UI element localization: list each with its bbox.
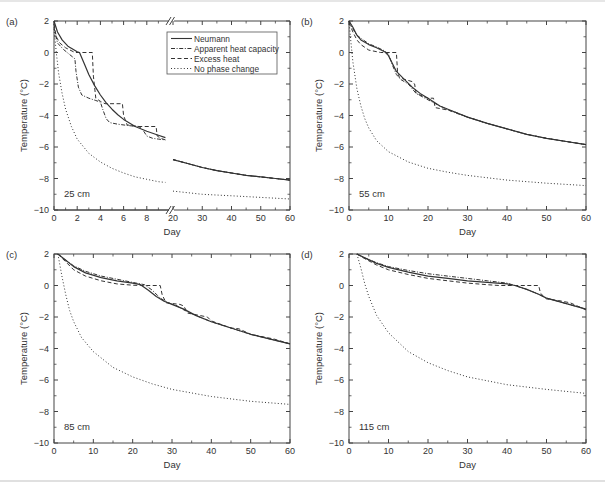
y-tick-label: −10 — [329, 438, 344, 448]
depth-annotation: 115 cm — [359, 421, 390, 432]
x-tick-label: 20 — [423, 213, 433, 223]
depth-annotation: 55 cm — [359, 188, 385, 199]
y-tick-label: −8 — [334, 407, 344, 417]
depth-annotation: 85 cm — [64, 421, 90, 432]
depth-annotation: 25 cm — [64, 188, 90, 199]
y-tick-label: −10 — [34, 205, 49, 215]
x-tick-label: 60 — [581, 213, 591, 223]
x-tick-label: 30 — [197, 213, 207, 223]
y-tick-label: 0 — [44, 48, 49, 58]
y-tick-label: 0 — [44, 281, 49, 291]
y-tick-label: −4 — [39, 111, 49, 121]
series-excess-heat — [54, 24, 165, 140]
x-tick-label: 50 — [541, 446, 551, 456]
x-tick-label: 0 — [346, 213, 351, 223]
series-excess-heat — [173, 160, 290, 181]
x-tick-label: 50 — [246, 446, 256, 456]
y-tick-label: 2 — [44, 16, 49, 26]
x-tick-label: 10 — [88, 446, 98, 456]
y-axis-label: Temperature (°C) — [313, 79, 324, 152]
series-no-phase-change — [349, 21, 586, 186]
panel-label: (d) — [301, 249, 313, 260]
series-apparent-heat-capacity — [54, 27, 165, 140]
y-tick-label: 2 — [44, 249, 49, 259]
series-excess-heat — [58, 254, 290, 344]
y-tick-label: −2 — [334, 312, 344, 322]
x-tick-label: 20 — [423, 446, 433, 456]
figure: 02468203040506020−2−4−6−8−10DayTemperatu… — [0, 0, 605, 482]
series-neumann — [349, 21, 586, 145]
panel-label: (b) — [301, 16, 313, 27]
y-tick-label: −6 — [334, 375, 344, 385]
legend-label-neumann: Neumann — [194, 34, 230, 44]
series-apparent-heat-capacity — [173, 160, 290, 181]
x-tick-label: 30 — [462, 446, 472, 456]
y-tick-label: −2 — [334, 79, 344, 89]
x-tick-label: 20 — [168, 213, 178, 223]
x-axis-label: Day — [164, 459, 181, 470]
x-axis-label: Day — [164, 226, 181, 237]
y-tick-label: 0 — [339, 281, 344, 291]
panel-c: 010203040506020−2−4−6−8−10DayTemperature… — [6, 249, 295, 470]
legend-label-excess-heat: Excess heat — [194, 54, 240, 64]
x-tick-label: 30 — [462, 213, 472, 223]
legend-label-no-phase-change: No phase change — [194, 64, 259, 74]
y-tick-label: 2 — [339, 249, 344, 259]
y-axis-label: Temperature (°C) — [18, 79, 29, 152]
x-tick-label: 40 — [226, 213, 236, 223]
series-neumann — [54, 21, 165, 138]
series-no-phase-change — [58, 254, 290, 404]
y-tick-label: 2 — [339, 16, 344, 26]
x-tick-label: 60 — [285, 213, 295, 223]
x-tick-label: 60 — [285, 446, 295, 456]
legend-label-apparent-heat-capacity: Apparent heat capacity — [194, 44, 280, 54]
series-no-phase-change — [54, 29, 165, 183]
y-tick-label: −8 — [39, 407, 49, 417]
y-tick-label: −2 — [39, 312, 49, 322]
x-tick-label: 8 — [144, 213, 149, 223]
y-tick-label: −6 — [39, 375, 49, 385]
series-neumann — [357, 254, 586, 309]
series-neumann — [58, 254, 290, 344]
axes-frame — [349, 254, 586, 443]
axes-frame — [54, 254, 290, 443]
x-axis-label: Day — [459, 459, 476, 470]
series-apparent-heat-capacity — [58, 254, 290, 344]
y-tick-label: −4 — [334, 344, 344, 354]
y-tick-label: −8 — [334, 174, 344, 184]
y-axis-label: Temperature (°C) — [18, 312, 29, 385]
series-neumann — [173, 160, 290, 181]
x-tick-label: 40 — [502, 446, 512, 456]
x-tick-label: 40 — [502, 213, 512, 223]
panel-label: (a) — [6, 16, 18, 27]
y-tick-label: −10 — [329, 205, 344, 215]
y-tick-label: −10 — [34, 438, 49, 448]
x-tick-label: 40 — [206, 446, 216, 456]
y-tick-label: −8 — [39, 174, 49, 184]
series-excess-heat — [349, 23, 586, 145]
x-tick-label: 6 — [121, 213, 126, 223]
y-tick-label: 0 — [339, 48, 344, 58]
y-tick-label: −2 — [39, 79, 49, 89]
series-no-phase-change — [357, 254, 586, 393]
x-tick-label: 0 — [51, 446, 56, 456]
series-no-phase-change — [173, 191, 290, 199]
panel-d: 010203040506020−2−4−6−8−10DayTemperature… — [301, 249, 591, 470]
x-tick-label: 30 — [167, 446, 177, 456]
panel-label: (c) — [6, 249, 17, 260]
series-excess-heat — [357, 254, 586, 310]
x-tick-label: 50 — [541, 213, 551, 223]
y-tick-label: −6 — [39, 142, 49, 152]
x-axis-label: Day — [459, 226, 476, 237]
y-tick-label: −6 — [334, 142, 344, 152]
panel-b: 010203040506020−2−4−6−8−10DayTemperature… — [301, 16, 591, 237]
x-tick-label: 20 — [128, 446, 138, 456]
y-tick-label: −4 — [39, 344, 49, 354]
x-tick-label: 0 — [51, 213, 56, 223]
x-tick-label: 10 — [383, 213, 393, 223]
x-tick-label: 4 — [98, 213, 103, 223]
legend: Neumann Apparent heat capacity Excess he… — [167, 32, 280, 74]
axes-frame — [349, 21, 586, 210]
y-tick-label: −4 — [334, 111, 344, 121]
y-axis-label: Temperature (°C) — [313, 312, 324, 385]
